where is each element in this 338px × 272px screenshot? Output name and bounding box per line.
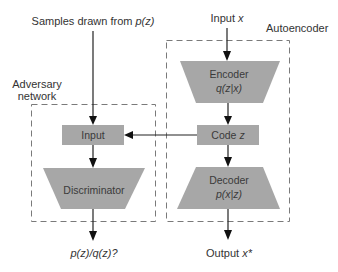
autoencoder-label: Autoencoder [266,22,329,34]
output-x-label: Output x* [206,247,253,259]
discriminator-label: Discriminator [63,184,125,196]
discriminator-input-node: Input [62,125,124,145]
edge-discriminator-to-output [89,209,97,241]
edge-inputx-to-encoder [223,28,231,61]
adversarial-autoencoder-diagram: Adversary network Autoencoder Samples dr… [0,0,338,272]
discriminator-input-label: Input [81,129,104,141]
input-x-label: Input x [210,12,244,24]
decoder-node: Decoder p(x|z) [177,167,280,209]
decoder-math: p(x|z) [215,188,242,200]
arrowhead-icon [224,157,232,167]
encoder-math: q(z|x) [216,82,242,94]
arrowhead-icon [224,230,232,240]
edge-input-to-discriminator [89,145,97,168]
edge-code-to-decoder [224,145,232,167]
encoder-node: Encoder q(z|x) [180,61,280,103]
arrowhead-icon [224,116,232,125]
arrowhead-icon [124,131,133,139]
edge-decoder-to-output [224,209,232,240]
encoder-title: Encoder [209,68,249,80]
arrowhead-icon [223,51,231,61]
adversary-network-label-line2: network [18,90,57,102]
code-label: Code z [211,129,245,141]
edge-code-to-discriminator-input [124,131,197,139]
arrowhead-icon [89,116,97,125]
decoder-title: Decoder [209,174,249,186]
code-node: Code z [197,125,259,145]
samples-label: Samples drawn from p(z) [32,15,155,27]
edge-samples-to-input [89,31,97,125]
adversary-network-label: Adversary [12,78,62,90]
arrowhead-icon [89,158,97,168]
edge-encoder-to-code [224,103,232,125]
discriminator-node: Discriminator [43,168,145,209]
arrowhead-icon [89,231,97,241]
ratio-output-label: p(z)/q(z)? [69,247,118,259]
